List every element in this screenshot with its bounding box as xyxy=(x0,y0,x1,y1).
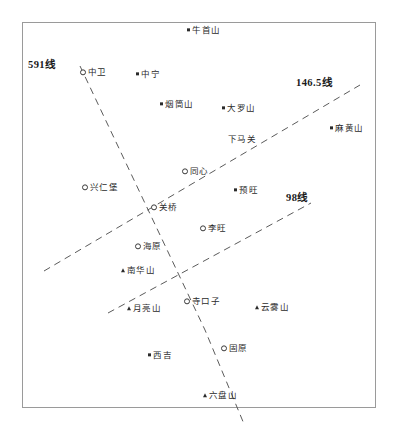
place-marker: 海原 xyxy=(135,241,162,250)
mountain-triangle-icon xyxy=(127,306,131,310)
city-circle-icon xyxy=(221,345,227,351)
place-label: 下马关 xyxy=(228,135,256,144)
site-square-icon xyxy=(148,353,151,356)
place-label: 大罗山 xyxy=(227,104,255,113)
place-label: 六盘山 xyxy=(209,391,237,400)
place-marker: 中卫 xyxy=(80,67,107,76)
place-label: 李旺 xyxy=(208,224,227,233)
survey-line-label: 146.5线 xyxy=(296,78,332,89)
site-square-icon xyxy=(160,102,163,105)
site-square-icon xyxy=(187,28,190,31)
site-square-icon xyxy=(330,126,333,129)
mountain-triangle-icon xyxy=(203,393,207,397)
place-marker: 云雾山 xyxy=(255,302,289,311)
place-label: 牛首山 xyxy=(192,26,220,35)
place-marker: 南华山 xyxy=(121,265,155,274)
place-label: 烟筒山 xyxy=(165,100,193,109)
place-label: 兴仁堡 xyxy=(90,183,118,192)
place-marker: 月亮山 xyxy=(127,303,161,312)
mountain-triangle-icon xyxy=(121,268,125,272)
mountain-triangle-icon xyxy=(255,305,259,309)
place-marker: 寺口子 xyxy=(184,296,220,305)
place-marker: 牛首山 xyxy=(187,25,220,34)
place-label: 中宁 xyxy=(141,70,160,79)
place-marker: 同心 xyxy=(182,166,209,175)
place-marker: 李旺 xyxy=(200,223,227,232)
place-label: 南华山 xyxy=(127,266,155,275)
place-label: 关桥 xyxy=(159,203,178,212)
city-circle-icon xyxy=(80,69,86,75)
place-marker: 关桥 xyxy=(151,202,178,211)
place-label: 西吉 xyxy=(153,351,172,360)
place-label: 寺口子 xyxy=(192,297,220,306)
site-square-icon xyxy=(136,72,139,75)
place-label: 同心 xyxy=(190,167,209,176)
place-label: 中卫 xyxy=(88,68,107,77)
survey-line-label: 98线 xyxy=(286,193,308,204)
place-label: 固原 xyxy=(229,344,248,353)
place-marker: 西吉 xyxy=(148,350,172,359)
place-marker: 兴仁堡 xyxy=(82,182,118,191)
place-marker: 中宁 xyxy=(136,69,160,78)
place-marker: 下马关 xyxy=(228,134,256,143)
city-circle-icon xyxy=(82,184,88,190)
site-square-icon xyxy=(222,106,225,109)
place-marker: 麻黄山 xyxy=(330,123,363,132)
place-label: 预旺 xyxy=(239,186,258,195)
place-marker: 预旺 xyxy=(234,185,258,194)
site-square-icon xyxy=(234,188,237,191)
map-container: 牛首山中卫中宁烟筒山大罗山麻黄山下马关同心兴仁堡预旺关桥李旺海原南华山月亮山寺口… xyxy=(0,0,397,441)
place-marker: 烟筒山 xyxy=(160,99,193,108)
city-circle-icon xyxy=(182,168,188,174)
place-label: 麻黄山 xyxy=(335,124,363,133)
place-label: 云雾山 xyxy=(261,303,289,312)
place-marker: 固原 xyxy=(221,343,248,352)
city-circle-icon xyxy=(184,298,190,304)
place-label: 月亮山 xyxy=(133,304,161,313)
place-marker: 六盘山 xyxy=(203,390,237,399)
city-circle-icon xyxy=(135,243,141,249)
city-circle-icon xyxy=(151,204,157,210)
city-circle-icon xyxy=(200,225,206,231)
survey-line-label: 591线 xyxy=(28,60,55,71)
place-marker: 大罗山 xyxy=(222,103,255,112)
place-label: 海原 xyxy=(143,242,162,251)
